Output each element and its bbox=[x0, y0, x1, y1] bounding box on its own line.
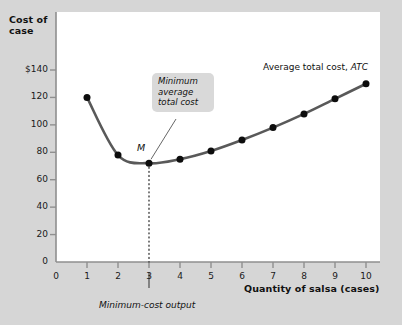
cost-curve-figure: Cost of case Quantity of salsa (cases) $… bbox=[0, 0, 402, 325]
x-tick-label: 3 bbox=[140, 271, 158, 281]
minimum-cost-output-label: Minimum-cost output bbox=[99, 300, 195, 310]
axis-lines bbox=[56, 12, 380, 262]
series-label-atc: Average total cost, ATC bbox=[263, 62, 368, 72]
series-label-abbrev: ATC bbox=[351, 62, 368, 72]
x-tick-label: 8 bbox=[295, 271, 313, 281]
minimum-average-total-cost-callout: Minimum average total cost bbox=[152, 73, 214, 112]
x-axis-title: Quantity of salsa (cases) bbox=[244, 283, 380, 294]
y-tick-label: 100 bbox=[14, 119, 48, 129]
y-tick-label: 60 bbox=[14, 174, 48, 184]
minimum-point-label: M bbox=[137, 142, 145, 153]
x-tick-label: 4 bbox=[171, 271, 189, 281]
x-tick-label: 9 bbox=[326, 271, 344, 281]
x-tick-label: 2 bbox=[109, 271, 127, 281]
callout-line-3: total cost bbox=[158, 97, 198, 107]
y-tick-label: 120 bbox=[14, 91, 48, 101]
y-tick-label: $140 bbox=[14, 64, 48, 74]
y-tick-label: 0 bbox=[14, 256, 48, 266]
x-tick-label: 6 bbox=[233, 271, 251, 281]
x-tick-label: 10 bbox=[357, 271, 375, 281]
callout-leader-line bbox=[151, 119, 176, 159]
series-label-text: Average total cost, bbox=[263, 62, 351, 72]
y-axis-title: Cost of case bbox=[9, 14, 57, 36]
x-tick-label: 7 bbox=[264, 271, 282, 281]
x-tick-marks bbox=[87, 262, 366, 268]
y-tick-marks bbox=[50, 70, 56, 235]
data-point-markers bbox=[84, 80, 370, 167]
x-tick-label: 0 bbox=[47, 271, 65, 281]
y-tick-label: 80 bbox=[14, 146, 48, 156]
x-tick-label: 5 bbox=[202, 271, 220, 281]
y-tick-label: 20 bbox=[14, 229, 48, 239]
atc-curve bbox=[87, 84, 366, 164]
y-tick-label: 40 bbox=[14, 201, 48, 211]
x-tick-label: 1 bbox=[78, 271, 96, 281]
callout-line-1: Minimum bbox=[158, 76, 198, 86]
callout-line-2: average bbox=[158, 87, 193, 97]
